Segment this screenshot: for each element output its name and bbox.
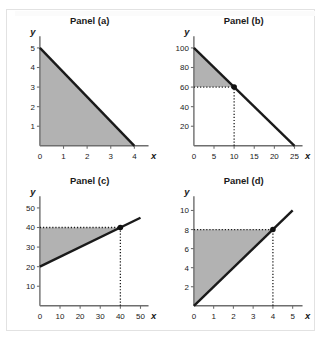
y-tick-label: 1 <box>30 122 35 131</box>
x-axis-label: x <box>150 150 157 161</box>
panel-title: Panel (d) <box>223 175 263 186</box>
x-tick-label: 40 <box>116 312 125 321</box>
y-axis-label: y <box>183 186 190 197</box>
x-axis-label: x <box>150 310 157 321</box>
x-tick-label: 5 <box>211 152 216 161</box>
x-tick-label: 20 <box>269 152 278 161</box>
x-tick-label: 0 <box>38 152 43 161</box>
y-tick-label: 10 <box>180 206 189 215</box>
y-tick-label: 3 <box>30 83 35 92</box>
x-tick-label: 25 <box>290 152 299 161</box>
x-tick-label: 2 <box>85 152 90 161</box>
x-axis-label: x <box>303 150 310 161</box>
x-tick-label: 4 <box>270 312 275 321</box>
y-tick-label: 6 <box>184 245 189 254</box>
y-tick-label: 10 <box>26 282 35 291</box>
x-tick-label: 5 <box>290 312 295 321</box>
y-axis-label: y <box>29 186 36 197</box>
panel-a: Panel (a)1234501234yx <box>7 10 161 170</box>
x-tick-label: 4 <box>132 152 137 161</box>
panel-d: Panel (d)246810012345yx <box>161 170 315 330</box>
y-tick-label: 8 <box>184 226 189 235</box>
y-tick-label: 20 <box>180 122 189 131</box>
x-tick-label: 1 <box>211 312 216 321</box>
y-tick-label: 2 <box>184 283 189 292</box>
plot-line <box>193 48 294 146</box>
x-tick-label: 10 <box>229 152 238 161</box>
x-tick-label: 0 <box>191 152 196 161</box>
x-tick-label: 0 <box>191 312 196 321</box>
figure-frame: Panel (a)1234501234yx Panel (b)204060801… <box>6 9 315 331</box>
x-tick-label: 3 <box>250 312 255 321</box>
y-tick-label: 80 <box>180 63 189 72</box>
x-tick-label: 20 <box>76 312 85 321</box>
x-tick-label: 1 <box>61 152 66 161</box>
x-axis-label: x <box>303 310 310 321</box>
x-tick-label: 15 <box>249 152 258 161</box>
y-tick-label: 30 <box>26 243 35 252</box>
y-tick-label: 2 <box>30 103 35 112</box>
y-tick-label: 40 <box>26 223 35 232</box>
data-point-marker <box>231 84 237 90</box>
panel-grid: Panel (a)1234501234yx Panel (b)204060801… <box>7 10 314 330</box>
y-tick-label: 5 <box>30 44 35 53</box>
panel-title: Panel (c) <box>70 175 109 186</box>
y-tick-label: 100 <box>175 44 189 53</box>
panel-title: Panel (a) <box>70 15 109 26</box>
x-tick-label: 30 <box>96 312 105 321</box>
y-axis-label: y <box>183 26 190 37</box>
x-tick-label: 3 <box>109 152 114 161</box>
panel-title: Panel (b) <box>223 15 263 26</box>
panel-b: Panel (b)204060801000510152025yx <box>161 10 315 170</box>
y-tick-label: 60 <box>180 83 189 92</box>
y-axis-label: y <box>29 26 36 37</box>
data-point-marker <box>118 225 124 231</box>
y-tick-label: 4 <box>184 264 189 273</box>
x-tick-label: 50 <box>136 312 145 321</box>
y-tick-label: 40 <box>180 103 189 112</box>
panel-c: Panel (c)102030405001020304050yx <box>7 170 161 330</box>
x-tick-label: 2 <box>231 312 236 321</box>
y-tick-label: 4 <box>30 63 35 72</box>
x-tick-label: 10 <box>56 312 65 321</box>
data-point-marker <box>270 227 276 233</box>
y-tick-label: 20 <box>26 263 35 272</box>
x-tick-label: 0 <box>38 312 43 321</box>
y-tick-label: 50 <box>26 204 35 213</box>
